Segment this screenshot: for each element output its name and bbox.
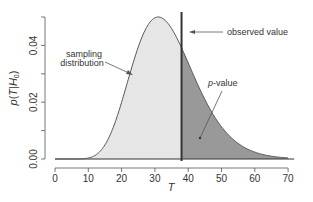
x-tick-label: 70: [283, 173, 295, 184]
x-axis-label: T: [168, 181, 176, 193]
chart: 0.000.020.04 010203040506070 T p(T|H0) o…: [0, 0, 313, 202]
areas: [55, 17, 288, 159]
p-value-pointer-dot: [199, 137, 201, 139]
p-value-area: [182, 48, 289, 159]
y-tick-label: 0.02: [28, 92, 39, 112]
x-tick-label: 20: [116, 173, 128, 184]
x-tick-label: 40: [183, 173, 195, 184]
x-tick-label: 0: [52, 173, 58, 184]
y-tick-label: 0.04: [28, 35, 39, 55]
annotation-observed-value: observed value: [189, 27, 288, 37]
y-axis: 0.000.020.04: [28, 17, 45, 169]
x-tick-label: 50: [216, 173, 228, 184]
x-tick-label: 10: [83, 173, 95, 184]
annotation-sampling-distribution: sampling distribution: [60, 49, 133, 75]
observed-value-label: observed value: [227, 27, 288, 37]
x-tick-label: 60: [249, 173, 261, 184]
p-value-label: p-value: [207, 78, 238, 88]
sampling-distribution-label-line2: distribution: [60, 58, 104, 68]
sampling-distribution-area: [55, 17, 182, 159]
y-axis-label: p(T|H0): [7, 71, 20, 107]
observed-value-arrowhead: [189, 30, 195, 34]
x-tick-label: 30: [149, 173, 161, 184]
y-tick-label: 0.00: [28, 149, 39, 169]
